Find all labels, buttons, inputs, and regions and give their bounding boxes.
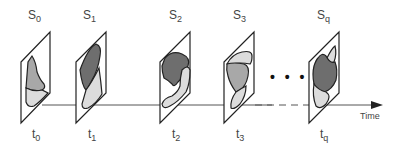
ellipsis-dots: • • • <box>270 69 307 85</box>
state-label-1: S1 <box>83 9 96 24</box>
time-label-1: t1 <box>88 128 96 143</box>
arrow-head-icon <box>371 101 383 109</box>
state-label-q: Sq <box>317 9 330 24</box>
spatiotemporal-snapshot-diagram: S0 S1 S2 S3 Sq t0 t1 t2 t3 tq • • • Time <box>0 0 395 151</box>
snapshot-plane-1 <box>76 32 106 123</box>
time-axis-label: Time <box>360 111 380 121</box>
time-label-0: t0 <box>32 128 40 143</box>
snapshot-plane-0 <box>21 32 50 123</box>
state-label-3: S3 <box>233 9 246 24</box>
snapshot-plane-3 <box>224 32 254 123</box>
time-label-3: t3 <box>236 128 244 143</box>
snapshot-plane-q <box>309 32 339 123</box>
diagram-canvas <box>0 0 395 151</box>
state-label-0: S0 <box>28 9 41 24</box>
time-label-q: tq <box>320 128 328 143</box>
time-label-2: t2 <box>172 128 180 143</box>
snapshot-plane-2 <box>160 32 190 123</box>
state-label-2: S2 <box>169 9 182 24</box>
